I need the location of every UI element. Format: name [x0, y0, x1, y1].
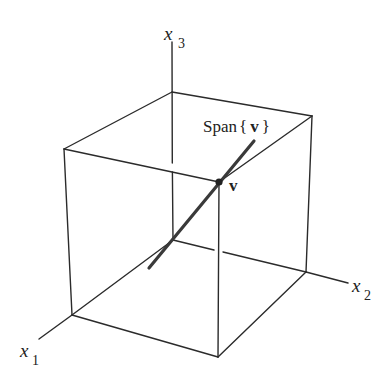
axes: [39, 42, 348, 339]
point-v-label: v: [229, 176, 238, 195]
x2-label: x: [351, 275, 361, 296]
x1-label: x: [19, 340, 29, 361]
x3-axis-lower: [172, 172, 173, 240]
span-label-open: {: [239, 117, 247, 136]
x2-axis-segment2: [223, 252, 306, 272]
x3-label: x: [163, 23, 173, 44]
span-v-line: [149, 141, 254, 268]
top-front-left-edge: [64, 149, 219, 182]
x2-subscript: 2: [364, 288, 371, 303]
bottom-right-edge: [218, 272, 306, 357]
span-label-prefix: Span: [203, 117, 238, 136]
top-back-left-edge: [64, 92, 172, 149]
span-label: Span{v}: [203, 117, 270, 136]
x1-subscript: 1: [32, 353, 39, 368]
box-edges: [64, 92, 312, 357]
front-right-vertical: [218, 182, 219, 357]
back-right-vertical: [306, 116, 312, 272]
top-back-right-edge: [172, 92, 312, 116]
x1-axis-ext: [39, 315, 72, 339]
bottom-front-edge: [72, 315, 218, 357]
x3-subscript: 3: [178, 36, 185, 51]
span-label-vector: v: [250, 117, 259, 136]
front-left-vertical: [64, 149, 72, 315]
span-label-close: }: [262, 117, 270, 136]
x2-axis-ext: [306, 272, 348, 283]
x1-axis: [72, 240, 173, 315]
span-v-diagram: x 3 x 1 x 2 Span{v} v: [0, 0, 388, 368]
x2-axis-segment1: [173, 240, 214, 250]
point-v-dot: [215, 178, 222, 185]
